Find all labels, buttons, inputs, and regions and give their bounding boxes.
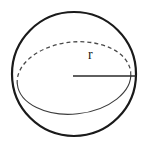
equator-front-solid-arc [17,72,134,120]
sphere-figure-svg [0,0,147,154]
sphere-outline-circle [12,12,136,136]
radius-label: r [88,48,93,62]
sphere-diagram: r [0,0,147,154]
equator-back-dashed-arc [14,36,131,84]
